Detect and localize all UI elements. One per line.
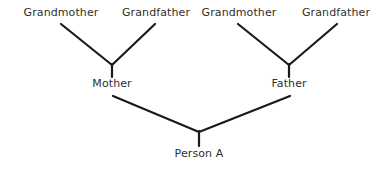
line-paternal-grandmother-to-father	[238, 24, 289, 65]
node-maternal-grandfather: Grandfather	[122, 7, 190, 19]
line-maternal-grandmother-to-mother	[61, 24, 112, 65]
parents-connector-group	[113, 96, 290, 146]
node-father: Father	[271, 78, 306, 90]
maternal-connector-group	[61, 24, 155, 77]
family-tree-connector-lines	[0, 0, 390, 171]
line-mother-to-person-a	[113, 96, 199, 132]
node-mother: Mother	[92, 78, 131, 90]
line-maternal-grandfather-to-mother	[112, 24, 155, 65]
paternal-connector-group	[238, 24, 337, 77]
family-tree-diagram: Grandmother Grandfather Grandmother Gran…	[0, 0, 390, 171]
node-maternal-grandmother: Grandmother	[24, 7, 99, 19]
node-paternal-grandfather: Grandfather	[302, 7, 370, 19]
line-paternal-grandfather-to-father	[289, 24, 337, 65]
node-paternal-grandmother: Grandmother	[202, 7, 277, 19]
line-father-to-person-a	[199, 96, 290, 132]
node-person-a: Person A	[175, 148, 224, 160]
